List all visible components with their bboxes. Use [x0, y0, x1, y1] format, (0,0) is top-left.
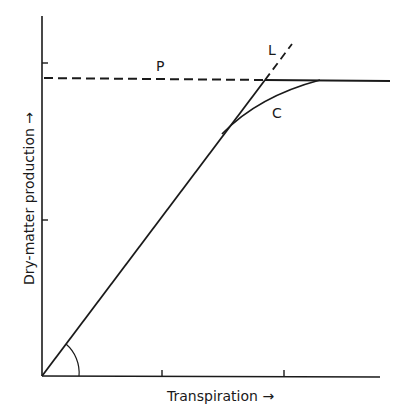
x-axis	[42, 376, 380, 377]
angle-arc	[66, 344, 79, 376]
series-p-dashed	[44, 78, 265, 80]
series-p-solid	[265, 80, 390, 81]
label-p: P	[156, 58, 164, 74]
series-c	[222, 80, 320, 134]
label-l: L	[268, 42, 276, 58]
y-axis-label: Dry-matter production →	[21, 112, 37, 285]
label-c: C	[272, 105, 282, 121]
x-axis-label: Transpiration →	[166, 388, 274, 404]
chart: P L C Transpiration → Dry-matter product…	[0, 0, 407, 420]
